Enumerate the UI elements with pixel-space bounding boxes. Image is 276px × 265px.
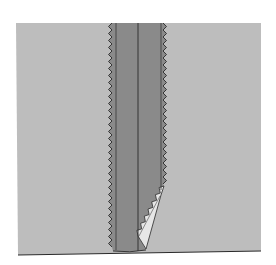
seam-illustration [0,0,276,265]
